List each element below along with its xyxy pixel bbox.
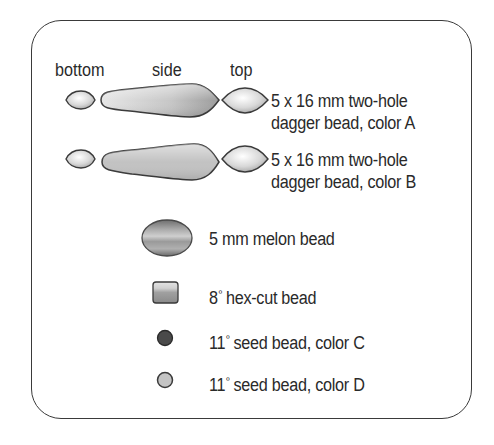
hex-cut-bead-label: 8º hex-cut bead bbox=[209, 284, 316, 308]
seed-bead-c-icon bbox=[158, 331, 173, 346]
dagger-b-label-line1: 5 x 16 mm two-hole bbox=[271, 150, 408, 170]
dagger-bead-a-side-icon bbox=[101, 84, 219, 117]
dagger-bead-b-top-icon bbox=[222, 146, 268, 172]
dagger-bead-b-side-icon bbox=[102, 144, 219, 180]
dagger-a-label-line1: 5 x 16 mm two-hole bbox=[271, 91, 408, 111]
hex-cut-text: hex-cut bead bbox=[222, 288, 317, 308]
melon-bead-label: 5 mm melon bead bbox=[209, 229, 335, 249]
hex-cut-size: 8 bbox=[209, 288, 218, 308]
seed-d-text: seed bead, color D bbox=[229, 375, 364, 395]
dagger-bead-b-bottom-icon bbox=[66, 150, 95, 168]
dagger-b-label-line2: dagger bead, color B bbox=[271, 172, 416, 192]
dagger-bead-a-top-icon bbox=[222, 88, 268, 113]
melon-bead-icon bbox=[142, 220, 192, 256]
seed-bead-d-label: 11º seed bead, color D bbox=[209, 371, 365, 395]
seed-bead-c-label: 11º seed bead, color C bbox=[209, 329, 365, 353]
seed-bead-d-icon bbox=[158, 373, 173, 388]
dagger-bead-a-bottom-icon bbox=[66, 91, 95, 109]
hex-cut-bead-icon bbox=[153, 282, 178, 303]
seed-c-size: 11 bbox=[209, 333, 225, 353]
dagger-a-label-line2: dagger bead, color A bbox=[271, 113, 415, 133]
seed-c-text: seed bead, color C bbox=[229, 333, 364, 353]
seed-d-size: 11 bbox=[209, 375, 225, 395]
